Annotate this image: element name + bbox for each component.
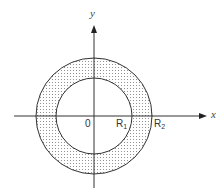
r1-label: R1 bbox=[116, 119, 127, 130]
r2-label-sub: 2 bbox=[161, 123, 165, 130]
y-axis-label: y bbox=[90, 8, 95, 19]
diagram-canvas: y x 0 R1 R2 bbox=[0, 0, 224, 194]
r2-label: R2 bbox=[154, 119, 165, 130]
origin-label: 0 bbox=[85, 119, 91, 129]
x-axis-label: x bbox=[211, 109, 216, 120]
annulus-shaded-region bbox=[0, 0, 224, 194]
r1-label-sub: 1 bbox=[123, 123, 127, 130]
annulus-diagram bbox=[0, 0, 224, 194]
